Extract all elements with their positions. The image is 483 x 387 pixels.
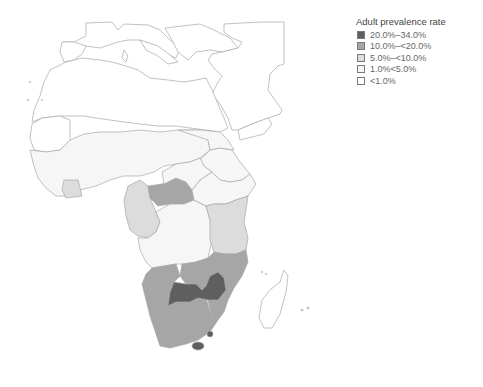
island bbox=[261, 271, 263, 273]
legend-label: 20.0%–34.0% bbox=[370, 30, 426, 40]
lesotho bbox=[192, 342, 204, 350]
legend-swatch bbox=[357, 54, 365, 62]
island bbox=[301, 309, 304, 312]
legend-label: 10.0%–<20.0% bbox=[370, 41, 431, 51]
island bbox=[307, 307, 310, 310]
legend-swatch bbox=[357, 31, 365, 39]
legend-swatch bbox=[357, 42, 365, 50]
island bbox=[27, 99, 29, 101]
legend-item-1: 20.0%–34.0% bbox=[356, 29, 481, 41]
legend-swatch bbox=[357, 77, 365, 85]
swaziland bbox=[207, 331, 213, 337]
east-africa-region bbox=[206, 196, 248, 254]
legend-item-4: 1.0%<5.0% bbox=[356, 64, 481, 76]
island bbox=[265, 273, 267, 275]
cote-divoire bbox=[62, 180, 82, 198]
legend-title: Adult prevalence rate bbox=[356, 16, 481, 27]
legend-item-3: 5.0%–<10.0% bbox=[356, 52, 481, 64]
legend: Adult prevalence rate 20.0%–34.0% 10.0%–… bbox=[356, 16, 481, 87]
legend-label: 5.0%–<10.0% bbox=[370, 53, 426, 63]
legend-label: 1.0%<5.0% bbox=[370, 64, 416, 74]
legend-swatch bbox=[357, 65, 365, 73]
legend-item-5: <1.0% bbox=[356, 75, 481, 87]
legend-item-2: 10.0%–<20.0% bbox=[356, 41, 481, 53]
madagascar bbox=[259, 270, 288, 328]
island bbox=[29, 81, 31, 83]
island bbox=[41, 99, 43, 101]
legend-label: <1.0% bbox=[370, 76, 396, 86]
